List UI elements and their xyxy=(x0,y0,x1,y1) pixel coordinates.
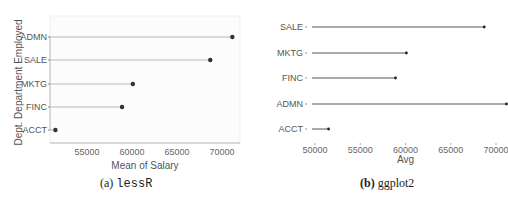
lollipop-dot xyxy=(208,58,212,62)
caption-a: (a) lessR xyxy=(100,176,152,191)
category-label: ADMN xyxy=(277,99,304,109)
plot-area xyxy=(50,16,240,143)
x-tick-label: 50000 xyxy=(302,145,327,155)
category-label: FINC xyxy=(282,73,303,83)
lollipop-dot xyxy=(505,103,508,106)
lollipop-dot xyxy=(327,128,330,131)
lollipop-dot xyxy=(53,128,57,132)
x-tick-label: 65000 xyxy=(164,147,189,157)
x-tick-label: 55000 xyxy=(348,145,373,155)
x-tick-label: 70000 xyxy=(209,147,234,157)
category-label: MKTG xyxy=(21,79,47,89)
x-tick-label: 70000 xyxy=(483,145,508,155)
category-label: ADMN xyxy=(21,32,48,42)
x-tick-label: 60000 xyxy=(119,147,144,157)
lollipop-dot xyxy=(120,105,124,109)
category-label: SALE xyxy=(24,55,47,65)
lollipop-dot xyxy=(394,77,397,80)
caption-b-name: ggplot2 xyxy=(378,176,415,190)
caption-a-label: (a) xyxy=(100,176,113,190)
lollipop-dot xyxy=(131,82,135,86)
category-label: FINC xyxy=(26,102,47,112)
x-tick-label: 65000 xyxy=(438,145,463,155)
lessr-lollipop-chart: ADMNSALEMKTGFINCACCT55000600006500070000… xyxy=(0,0,254,199)
lollipop-dot xyxy=(230,35,234,39)
category-label: SALE xyxy=(280,22,303,32)
x-tick-label: 55000 xyxy=(74,147,99,157)
y-axis-title: Dept. Department Employed xyxy=(13,19,24,145)
lollipop-dot xyxy=(483,26,486,29)
category-label: ACCT xyxy=(279,124,304,134)
caption-a-name: lessR xyxy=(116,177,152,191)
chart-panel-ggplot2: SALEMKTGFINCADMNACCT50000550006000065000… xyxy=(254,0,508,199)
category-label: ACCT xyxy=(23,125,48,135)
x-axis-title: Mean of Salary xyxy=(111,160,178,171)
ggplot2-lollipop-chart: SALEMKTGFINCADMNACCT50000550006000065000… xyxy=(254,0,508,199)
lollipop-dot xyxy=(405,52,408,55)
x-axis-title: Avg xyxy=(397,154,414,165)
chart-panel-lessr: ADMNSALEMKTGFINCACCT55000600006500070000… xyxy=(0,0,254,199)
caption-b: (b) ggplot2 xyxy=(360,176,414,191)
category-label: MKTG xyxy=(277,48,303,58)
caption-b-label: (b) xyxy=(360,176,375,190)
